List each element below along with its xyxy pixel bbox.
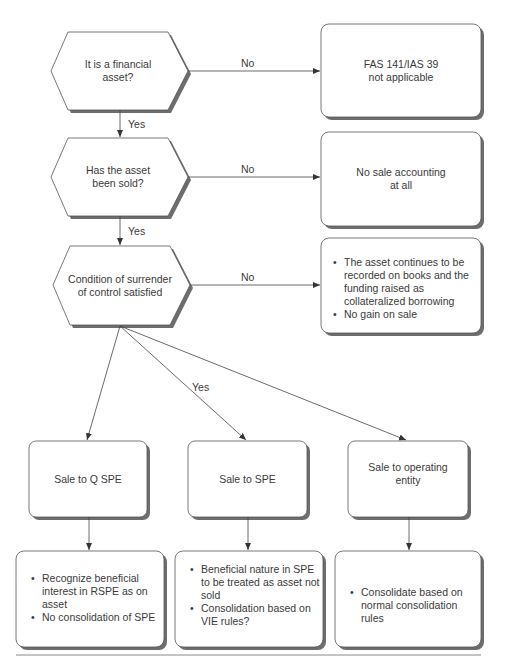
edge-label-yes-1: Yes	[128, 118, 145, 130]
decision-financial-asset: It is a financialasset?	[68, 32, 168, 110]
outcome-fas-not-applicable: FAS 141/IAS 39not applicable	[321, 24, 481, 117]
bullet-item: Consolidation based on VIE rules?	[201, 602, 320, 628]
edge-to-operating-entity	[120, 326, 406, 440]
edge-label-no-2: No	[241, 163, 254, 175]
edge-to-spe	[120, 326, 246, 440]
bullet-item: Recognize beneficial interest in RSPE as…	[42, 572, 159, 611]
sale-q-spe: Sale to Q SPE	[29, 441, 147, 517]
edge-label-no-3: No	[241, 271, 254, 283]
decision-asset-sold: Has the assetbeen sold?	[68, 138, 168, 216]
treatment-spe: Beneficial nature in SPE to be treated a…	[188, 563, 320, 628]
decision-surrender-control: Condition of surrenderof control satisfi…	[60, 246, 180, 325]
sale-spe: Sale to SPE	[188, 441, 307, 517]
treatment-operating-entity: Consolidate based on normal consolidatio…	[348, 586, 478, 625]
bullet-item: The asset continues to be recorded on bo…	[344, 256, 476, 308]
bullet-item: No consolidation of SPE	[42, 611, 159, 624]
bullet-item: Beneficial nature in SPE to be treated a…	[201, 563, 320, 602]
edge-label-yes-2: Yes	[128, 225, 145, 237]
edge-to-q-spe	[87, 326, 120, 440]
outcome-collateralized-borrowing: The asset continues to be recorded on bo…	[331, 256, 476, 321]
bullet-item: Consolidate based on normal consolidatio…	[361, 586, 478, 625]
edge-label-yes-3: Yes	[192, 381, 209, 393]
sale-operating-entity: Sale to operatingentity	[348, 436, 468, 512]
bullet-item: No gain on sale	[344, 308, 476, 321]
outcome-no-sale-accounting: No sale accountingat all	[321, 132, 481, 226]
treatment-q-spe: Recognize beneficial interest in RSPE as…	[29, 572, 159, 624]
edge-label-no-1: No	[241, 57, 254, 69]
